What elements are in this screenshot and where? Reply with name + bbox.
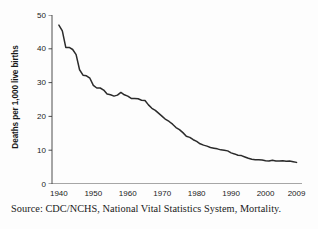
y-tick-label: 50 — [30, 11, 46, 20]
data-line — [59, 25, 297, 162]
x-tick-label: 1980 — [183, 189, 211, 198]
x-tick-label: 1970 — [148, 189, 176, 198]
line-chart-svg — [45, 15, 305, 184]
source-caption: Source: CDC/NCHS, National Vital Statist… — [11, 203, 281, 214]
plot-area — [45, 15, 305, 184]
y-tick-label: 30 — [30, 78, 46, 87]
y-axis-title: Deaths per 1,000 live births — [10, 11, 22, 183]
x-tick-label: 1950 — [79, 189, 107, 198]
y-tick-label: 20 — [30, 112, 46, 121]
x-tick-label: 1960 — [114, 189, 142, 198]
axes-group — [49, 15, 303, 184]
x-tick-label: 1990 — [217, 189, 245, 198]
x-tick-label: 1940 — [45, 189, 73, 198]
y-tick-label: 10 — [30, 146, 46, 155]
y-tick-label: 0 — [30, 180, 46, 189]
y-tick-label: 40 — [30, 44, 46, 53]
x-tick-label: 2000 — [252, 189, 280, 198]
series-group — [59, 25, 297, 162]
infant-mortality-chart-figure: Deaths per 1,000 live births 01020304050… — [0, 0, 318, 229]
x-tick-label: 2009 — [283, 189, 311, 198]
